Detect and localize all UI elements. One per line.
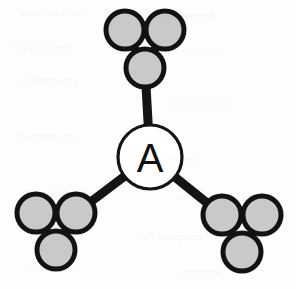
bl-apex-atom[interactable] xyxy=(37,231,75,269)
bl-right-atom[interactable] xyxy=(57,194,95,232)
br-right-atom[interactable] xyxy=(243,196,281,234)
figure-canvas: interaction ofdetermined inthe complexst… xyxy=(0,0,296,289)
center-node-group[interactable]: A xyxy=(118,125,182,189)
br-left-atom[interactable] xyxy=(203,196,241,234)
molecular-structure-diagram: A xyxy=(0,0,296,289)
top-apex-atom[interactable] xyxy=(126,49,164,87)
top-right-atom[interactable] xyxy=(146,11,184,49)
center-node-label: A xyxy=(137,136,164,180)
bl-left-atom[interactable] xyxy=(17,194,55,232)
br-apex-atom[interactable] xyxy=(223,233,261,271)
top-left-atom[interactable] xyxy=(106,11,144,49)
